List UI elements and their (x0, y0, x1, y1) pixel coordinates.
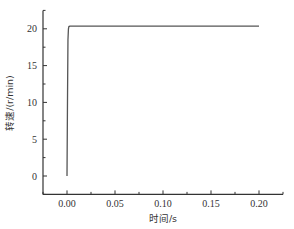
y-tick-label: 10 (27, 97, 37, 108)
y-tick-label: 15 (27, 60, 37, 71)
x-tick-label: 0.20 (250, 198, 268, 209)
x-tick-label: 0.05 (106, 198, 124, 209)
x-axis-label: 时间/s (149, 213, 177, 224)
y-axis-ticks: 05101520 (27, 10, 47, 194)
speed-line (67, 26, 259, 176)
x-tick-label: 0.00 (58, 198, 76, 209)
x-tick-label: 0.15 (202, 198, 220, 209)
y-tick-label: 0 (32, 171, 37, 182)
y-tick-label: 20 (27, 23, 37, 34)
y-tick-label: 5 (32, 134, 37, 145)
y-axis-label: 转速/(r/min) (4, 75, 15, 131)
x-axis-ticks: 0.000.050.100.150.20 (43, 190, 283, 209)
speed-time-chart: 05101520 0.000.050.100.150.20 时间/s 转速/(r… (0, 0, 294, 229)
axes (43, 10, 283, 194)
x-tick-label: 0.10 (154, 198, 172, 209)
